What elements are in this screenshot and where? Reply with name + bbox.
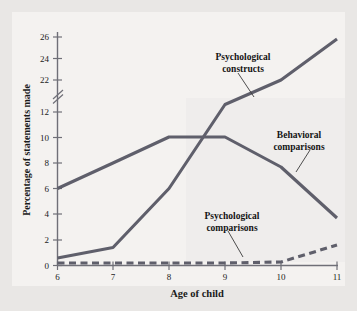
annotation-psychological-comparisons-line2: comparisons [206, 223, 258, 233]
annotation-behavioral-comparisons-line1: Behavioral [277, 130, 322, 140]
x-tick-label-10: 10 [277, 272, 287, 282]
y-tick-label-8: 8 [45, 158, 50, 168]
annotation-behavioral-comparisons-line2: comparisons [273, 142, 325, 152]
x-axis-title: Age of child [170, 288, 224, 299]
y-tick-label-22: 22 [40, 75, 49, 85]
annotation-psychological-comparisons-line1: Psychological [205, 211, 260, 221]
y-tick-label-0: 0 [45, 261, 50, 271]
y-axis-title: Percentage of statements made [21, 84, 32, 216]
left-edge-shade [0, 0, 12, 311]
x-tick-label-7: 7 [111, 272, 116, 282]
y-tick-label-12: 12 [40, 107, 49, 117]
y-tick-label-26: 26 [40, 32, 50, 42]
x-tick-label-9: 9 [223, 272, 228, 282]
chart-figure: 0 2 4 6 8 10 12 22 24 26 6 7 8 9 10 11 A… [0, 0, 357, 311]
y-tick-label-10: 10 [40, 133, 50, 143]
y-tick-label-24: 24 [40, 54, 50, 64]
panel-tint-region [186, 98, 345, 262]
x-tick-label-8: 8 [167, 272, 172, 282]
x-tick-label-6: 6 [55, 272, 60, 282]
annotation-psychological-constructs-line2: constructs [222, 64, 264, 74]
x-tick-label-11: 11 [333, 272, 342, 282]
y-tick-label-2: 2 [45, 235, 50, 245]
top-edge-shade [0, 0, 357, 12]
line-chart-canvas: 0 2 4 6 8 10 12 22 24 26 6 7 8 9 10 11 A… [0, 0, 357, 311]
y-tick-label-6: 6 [45, 184, 50, 194]
annotation-psychological-constructs-line1: Psychological [216, 52, 271, 62]
right-edge-shade [345, 0, 357, 311]
y-tick-label-4: 4 [45, 209, 50, 219]
